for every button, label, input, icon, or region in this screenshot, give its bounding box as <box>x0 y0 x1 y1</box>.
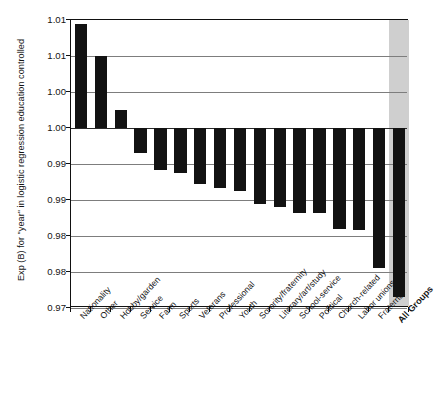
chart-figure: Exp (B) for "year" in logistic regressio… <box>0 0 440 398</box>
x-axis-tick-label: Sports <box>177 296 201 321</box>
x-axis-tick-labels: NationalityOtherHobby/gardenServiceFarmS… <box>0 0 440 398</box>
